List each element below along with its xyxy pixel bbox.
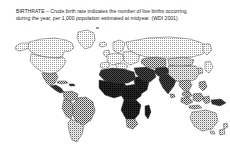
caption-line-2: during the year, per 1,000 population es… (16, 15, 218, 22)
region-southern-africa (121, 100, 141, 121)
region-japan (205, 61, 213, 73)
region-papua-new-guinea (211, 99, 226, 106)
region-peru-bolivia (62, 99, 73, 119)
region-philippines (199, 81, 207, 91)
region-iceland (99, 42, 107, 47)
region-kamchatka (203, 44, 212, 55)
caption-line-1: BIRTHRATE – Crude birth rate indicates t… (16, 8, 218, 15)
world-map-svg (0, 24, 230, 144)
region-cuba (57, 81, 68, 84)
region-mexico (42, 73, 58, 86)
world-map (0, 24, 230, 144)
region-sulawesi (203, 96, 210, 104)
region-hispaniola (69, 84, 75, 86)
region-south-africa (126, 119, 138, 129)
region-borneo (193, 93, 204, 102)
region-iberia (100, 62, 110, 69)
figure-caption: BIRTHRATE – Crude birth rate indicates t… (16, 8, 218, 23)
region-new-zealand-south (219, 129, 225, 135)
region-java (189, 105, 202, 109)
region-australia (190, 110, 218, 131)
region-tasmania (210, 131, 215, 134)
region-russia (126, 37, 207, 58)
region-mongolia (168, 57, 194, 67)
region-greenland (77, 30, 95, 49)
region-malaysia (182, 92, 192, 97)
region-central-america (50, 85, 64, 93)
region-scandinavia (113, 40, 125, 53)
region-sri-lanka (170, 94, 175, 98)
region-new-zealand (223, 123, 228, 129)
region-indochina (179, 80, 192, 92)
birthrate-world-map-figure: BIRTHRATE – Crude birth rate indicates t… (0, 0, 230, 144)
region-korea (198, 68, 203, 74)
region-madagascar (145, 105, 151, 119)
scan-artifact-mark (96, 27, 99, 29)
region-sumatra (181, 97, 193, 105)
